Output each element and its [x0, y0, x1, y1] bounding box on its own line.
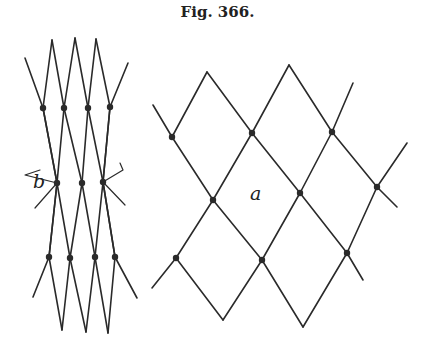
net-knot — [100, 179, 106, 185]
net-twine — [172, 72, 207, 137]
net-twine — [110, 63, 128, 107]
net-diagram: b a — [0, 0, 435, 351]
net-twine — [103, 107, 115, 333]
net-twine — [207, 72, 363, 280]
net-knot — [46, 254, 52, 260]
net-a-diamond-mesh — [152, 65, 407, 327]
net-twine — [43, 40, 52, 108]
net-knot — [40, 105, 46, 111]
net-knot — [67, 255, 73, 261]
net-twine — [43, 108, 62, 330]
net-knot — [85, 105, 91, 111]
net-twine — [103, 163, 123, 182]
net-twine — [176, 258, 223, 320]
net-knot — [374, 184, 380, 190]
label-a: a — [250, 182, 261, 204]
net-knot — [54, 180, 60, 186]
net-twine — [153, 105, 303, 327]
net-knot — [173, 255, 179, 261]
net-knot — [107, 104, 113, 110]
net-twine — [223, 83, 353, 320]
label-b: b — [33, 170, 45, 192]
net-twine — [75, 38, 137, 298]
net-knot — [112, 254, 118, 260]
net-knot — [297, 190, 303, 196]
net-knot — [92, 254, 98, 260]
net-twine — [289, 65, 397, 207]
net-knot — [344, 250, 350, 256]
net-twine — [52, 40, 108, 333]
net-knot — [61, 105, 67, 111]
net-knot — [329, 129, 335, 135]
net-knot — [249, 130, 255, 136]
net-twine — [303, 143, 407, 327]
net-twine — [152, 65, 289, 288]
net-knot — [259, 257, 265, 263]
net-knot — [169, 134, 175, 140]
net-knot — [79, 180, 85, 186]
net-knot — [210, 197, 216, 203]
